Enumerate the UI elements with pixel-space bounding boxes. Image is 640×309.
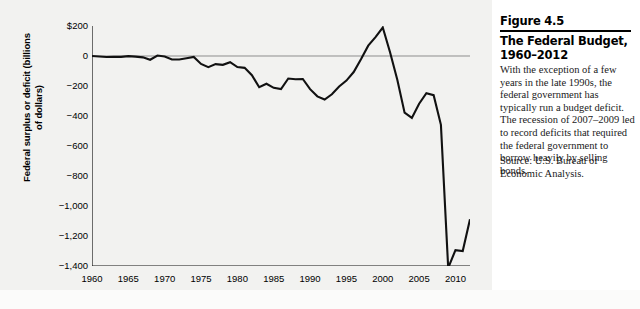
- figure-source: Source: U.S. Bureau of Economic Analysis…: [500, 155, 636, 180]
- page-bottom-band: [0, 290, 640, 309]
- figure-title: The Federal Budget, 1960–2012: [500, 34, 634, 62]
- deficit-series-line: [92, 28, 470, 267]
- plot-area: [92, 26, 470, 266]
- x-tick-label: 1985: [254, 273, 294, 284]
- figure-page: Federal surplus or deficit (billions of …: [0, 0, 640, 309]
- x-tick-label: 2005: [399, 273, 439, 284]
- chart-panel: Federal surplus or deficit (billions of …: [0, 0, 482, 309]
- figure-number: Figure 4.5: [500, 14, 564, 28]
- x-tick-label: 1980: [217, 273, 257, 284]
- figure-rule: [500, 30, 631, 32]
- x-tick-label: 2000: [363, 273, 403, 284]
- x-tick-label: 2010: [435, 273, 475, 284]
- x-tick-label: 1990: [290, 273, 330, 284]
- budget-line-chart: [92, 26, 470, 266]
- x-tick-label: 1975: [181, 273, 221, 284]
- x-tick-label: 1970: [145, 273, 185, 284]
- caption-panel: Figure 4.5 The Federal Budget, 1960–2012…: [492, 0, 640, 309]
- x-tick-label: 1995: [326, 273, 366, 284]
- x-tick-label: 1965: [108, 273, 148, 284]
- x-tick-label: 1960: [72, 273, 112, 284]
